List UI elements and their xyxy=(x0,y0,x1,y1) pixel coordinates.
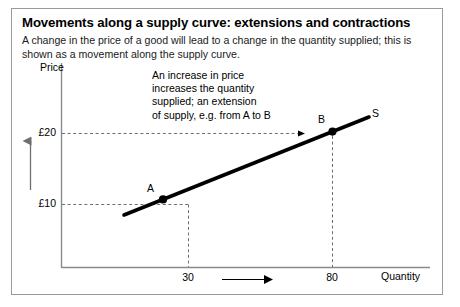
y-tick-label-10: £10 xyxy=(26,197,56,209)
y-axis-title: Price xyxy=(40,61,64,73)
x-axis-title: Quantity xyxy=(381,270,420,282)
annotation-line-2: increases the quantity xyxy=(152,82,332,95)
annotation-line-3: supplied; an extension xyxy=(152,95,332,108)
annotation-text: An increase in price increases the quant… xyxy=(152,69,332,122)
data-point-b xyxy=(328,128,336,136)
x-tick-label-30: 30 xyxy=(173,271,203,283)
annotation-line-4: of supply, e.g. from A to B xyxy=(152,109,332,122)
y-tick-label-20: £20 xyxy=(26,126,56,138)
x-tick-label-80: 80 xyxy=(317,271,347,283)
point-label-a: A xyxy=(147,182,154,194)
data-point-a xyxy=(159,195,167,203)
supply-curve-label: S xyxy=(372,107,379,119)
supply-curve-plot xyxy=(0,0,460,307)
annotation-line-1: An increase in price xyxy=(152,69,332,82)
diagram-screen: Movements along a supply curve: extensio… xyxy=(0,0,460,307)
